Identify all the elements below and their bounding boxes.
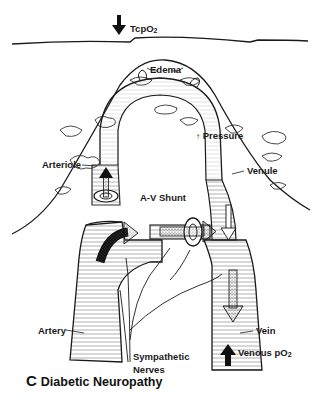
venule-label: Venule — [247, 166, 278, 176]
venous-po2-label: Venous pO2 — [238, 348, 292, 358]
av-shunt-label: A-V Shunt — [140, 193, 186, 203]
panel-letter: C — [26, 372, 37, 389]
pressure-label: ↑ Pressure — [196, 131, 243, 141]
figure-title: Diabetic Neuropathy — [41, 375, 163, 389]
tcpo2-label: TcpO2 — [130, 24, 157, 34]
vein-label: Vein — [256, 326, 276, 336]
tcpo2-down-arrow-icon — [112, 15, 126, 35]
edema-label: Edema — [150, 65, 181, 75]
artery — [70, 222, 162, 362]
artery-label: Artery — [38, 326, 66, 336]
capillary-loop-inner — [118, 95, 206, 180]
figure-caption: CDiabetic Neuropathy — [26, 373, 162, 389]
skin-surface-line — [12, 37, 308, 44]
pressure-up-arrow-icon: ↑ — [196, 132, 200, 141]
arteriole-label: Arteriole — [42, 160, 81, 170]
